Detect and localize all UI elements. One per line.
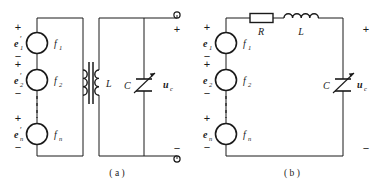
polarity-minus: −	[15, 141, 21, 153]
source-a-1: + − e 1 ′ f 1	[14, 21, 62, 62]
polarity-plus: +	[204, 58, 210, 70]
polarity-plus: +	[15, 58, 21, 70]
output-plus-b: +	[363, 23, 369, 35]
source-a-2: + − e 2 ′ f 2	[14, 58, 63, 99]
source-symbol	[216, 70, 237, 91]
capacitor-arrow-head	[349, 73, 354, 77]
emf-label: e	[14, 38, 19, 49]
emf-subscript: 2	[209, 81, 213, 88]
circuit-figure: + − e 1 ′ f 1 + − e 2 ′ f 2 + − e n ′ f	[0, 0, 378, 187]
polarity-minus: −	[204, 141, 210, 153]
frequency-subscript: 1	[59, 44, 62, 51]
circuit-diagram-svg: + − e 1 ′ f 1 + − e 2 ′ f 2 + − e n ′ f	[0, 0, 378, 187]
output-voltage-subscript-b: c	[364, 85, 367, 92]
output-minus-b: −	[363, 142, 369, 154]
source-symbol	[27, 33, 48, 54]
frequency-label: f	[54, 38, 58, 49]
source-symbol	[216, 33, 237, 54]
output-b: + − u c	[357, 23, 369, 154]
frequency-label: f	[54, 129, 58, 140]
polarity-plus: +	[15, 21, 21, 33]
emf-subscript: 1	[209, 44, 212, 51]
polarity-plus: +	[15, 112, 21, 124]
inductor-coil	[284, 14, 318, 18]
inductor-label-b: L	[297, 26, 304, 37]
caption-a: ( a )	[109, 168, 124, 179]
emf-prime: ′	[20, 126, 22, 135]
output-plus-a: +	[174, 23, 180, 35]
emf-subscript: 1	[20, 44, 23, 51]
capacitor-label-a: C	[124, 80, 131, 91]
source-b-2: + − e 2 f 2	[203, 58, 252, 99]
emf-label: e	[203, 75, 208, 86]
emf-subscript: n	[20, 135, 23, 142]
emf-label: e	[203, 129, 208, 140]
polarity-minus: −	[204, 87, 210, 99]
capacitor-a: C	[124, 18, 155, 156]
circuit-a: + − e 1 ′ f 1 + − e 2 ′ f 2 + − e n ′ f	[14, 12, 180, 179]
emf-label: e	[14, 75, 19, 86]
source-b-n: + − e n f n	[203, 112, 251, 153]
emf-subscript: n	[209, 135, 212, 142]
frequency-subscript: 1	[248, 44, 251, 51]
resistor-body	[250, 14, 273, 23]
output-a: + − u c	[163, 12, 180, 162]
output-voltage-subscript-a: c	[170, 85, 173, 92]
output-voltage-label-a: u	[163, 79, 169, 90]
source-symbol	[27, 70, 48, 91]
transformer-primary-coil	[83, 70, 87, 95]
polarity-plus: +	[204, 112, 210, 124]
emf-prime: ′	[20, 35, 22, 44]
emf-subscript: 2	[20, 81, 24, 88]
frequency-subscript: n	[59, 135, 62, 142]
transformer-a: L	[83, 62, 112, 104]
frequency-label: f	[243, 75, 247, 86]
source-b-1: + − e 1 f 1	[203, 21, 251, 62]
source-a-n: + − e n ′ f n	[14, 112, 62, 153]
frequency-label: f	[54, 75, 58, 86]
emf-prime: ′	[20, 72, 22, 81]
caption-b: ( b )	[284, 168, 300, 179]
frequency-subscript: 2	[59, 81, 63, 88]
polarity-plus: +	[204, 21, 210, 33]
transformer-secondary-coil	[95, 70, 99, 95]
frequency-label: f	[243, 129, 247, 140]
capacitor-arrow-head	[150, 73, 155, 77]
inductor-label-a: L	[105, 78, 112, 89]
emf-label: e	[14, 129, 19, 140]
frequency-label: f	[243, 38, 247, 49]
resistor-label-b: R	[257, 26, 264, 37]
output-minus-a: −	[174, 142, 180, 154]
output-voltage-label-b: u	[357, 79, 363, 90]
frequency-subscript: n	[248, 135, 251, 142]
frequency-subscript: 2	[248, 81, 252, 88]
source-symbol	[216, 124, 237, 145]
capacitor-label-b: C	[323, 80, 330, 91]
resistor-b: R	[250, 14, 284, 38]
inductor-b: L	[284, 14, 343, 37]
polarity-minus: −	[15, 87, 21, 99]
emf-label: e	[203, 38, 208, 49]
circuit-b: + − e 1 f 1 + − e 2 f 2 + − e n f n	[203, 14, 369, 180]
source-symbol	[27, 124, 48, 145]
capacitor-b: C	[323, 18, 354, 156]
